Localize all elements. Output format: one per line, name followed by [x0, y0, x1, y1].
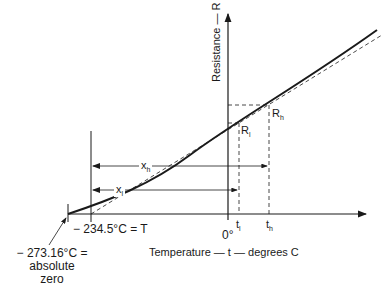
x-axis-label: Temperature — t — degrees C — [149, 246, 299, 258]
abs-zero-label: − 273.16°C = absolute zero — [16, 247, 88, 286]
th-label: th — [266, 218, 273, 232]
Rh-label: Rh — [272, 107, 284, 121]
xh-left-arrowhead — [92, 163, 100, 169]
tl-label: tl — [236, 218, 241, 232]
y-axis-label: Resistance — R — [210, 3, 222, 82]
Rl-label: Rl — [241, 124, 251, 138]
xl-left-arrowhead — [92, 187, 100, 193]
origin-label: 0° — [222, 229, 233, 241]
T-label: − 234.5°C = T — [73, 223, 148, 235]
abs-zero-pointer — [49, 218, 66, 245]
xl-label: xl — [114, 183, 125, 197]
xh-label: xh — [139, 159, 152, 173]
